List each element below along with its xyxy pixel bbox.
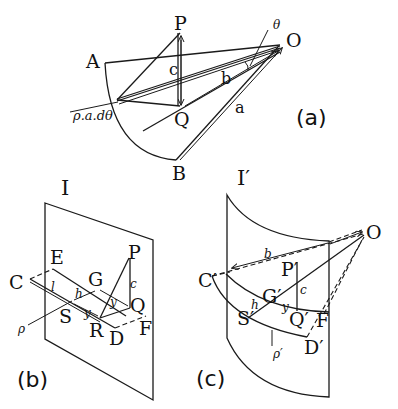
line-a-arrow (180, 48, 282, 160)
point-p-prime-label: P′ (281, 258, 298, 280)
point-d-prime-label: D′ (304, 336, 324, 358)
c-label-b: c (130, 277, 137, 291)
b-label: b (221, 69, 231, 88)
point-q-label-b: Q (130, 294, 146, 316)
a-label: a (235, 98, 245, 117)
point-s-label: S (59, 305, 72, 327)
line-arc-q (117, 100, 180, 106)
plane-i-label: I (61, 176, 69, 200)
point-g-label: G (88, 268, 103, 290)
point-o-label-c: O (366, 221, 382, 243)
rho-label-b: ρ (17, 322, 25, 336)
point-q-prime-label: Q′ (289, 308, 309, 330)
theta-label: θ (273, 18, 281, 32)
rho-prime-label: ρ′ (272, 347, 283, 361)
y-label-c: y (281, 300, 289, 314)
point-o-label: O (286, 29, 302, 51)
b-arrow (232, 243, 328, 268)
line-lower-to-o (143, 52, 280, 131)
point-c-prime-label: C′ (198, 269, 217, 291)
h-label-c: h (251, 298, 259, 312)
b-label-c: b (264, 247, 272, 261)
point-q-label: Q (174, 108, 190, 130)
c-label-c: c (300, 283, 307, 297)
panel-a: P O A B Q θ c b a ρ.a.dθ (a) (70, 12, 327, 184)
theta-arc (245, 62, 248, 70)
point-a-label: A (85, 50, 100, 72)
arrow-to-o (330, 232, 362, 244)
point-p-label-b: P (128, 241, 141, 263)
arc-length-label: ρ.a.dθ (72, 108, 113, 123)
point-d-label: D (109, 327, 124, 349)
panel-c: I′ O C′ P′ G′ S′ Q′ F D′ b c h y ρ′ (196, 166, 382, 397)
diagram-canvas: P O A B Q θ c b a ρ.a.dθ (a) I (0, 0, 398, 409)
y-label-1: y (83, 306, 91, 320)
dashed-ce (30, 269, 53, 279)
c-label: c (169, 60, 178, 79)
point-b-label: B (172, 162, 186, 184)
point-c-label: C (9, 271, 24, 293)
panel-b: I C E G P Q S R D F l h y y c (9, 176, 153, 400)
caption-a: (a) (296, 105, 327, 130)
point-f-label-c: F (316, 309, 329, 331)
point-p-label: P (174, 12, 187, 34)
point-g-prime-label: G′ (262, 285, 282, 307)
h-label: h (75, 287, 83, 301)
point-f-label: F (139, 317, 152, 339)
point-r-label: R (89, 319, 104, 341)
plane-i-prime-label: I′ (237, 166, 250, 190)
caption-c: (c) (196, 366, 225, 391)
caption-b: (b) (17, 367, 48, 392)
arc-ab (105, 63, 176, 160)
l-label: l (51, 280, 55, 294)
point-e-label: E (50, 246, 64, 268)
y-label-2: y (109, 295, 117, 309)
